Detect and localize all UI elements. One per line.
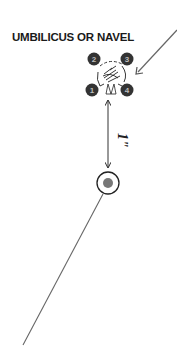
measurement-label: 1": [115, 133, 130, 148]
umbilicus-diagram: 1 2 3 4 1": [0, 0, 177, 349]
point-2: 2: [88, 53, 101, 66]
svg-text:2: 2: [92, 55, 97, 64]
pointer-arrow: [136, 30, 177, 74]
point-1: 1: [86, 84, 99, 97]
svg-text:4: 4: [125, 86, 130, 95]
svg-text:3: 3: [125, 55, 130, 64]
svg-text:1: 1: [90, 86, 95, 95]
target-point-icon: [97, 172, 119, 194]
point-4: 4: [121, 84, 134, 97]
guide-line: [23, 194, 103, 345]
point-3: 3: [121, 53, 134, 66]
